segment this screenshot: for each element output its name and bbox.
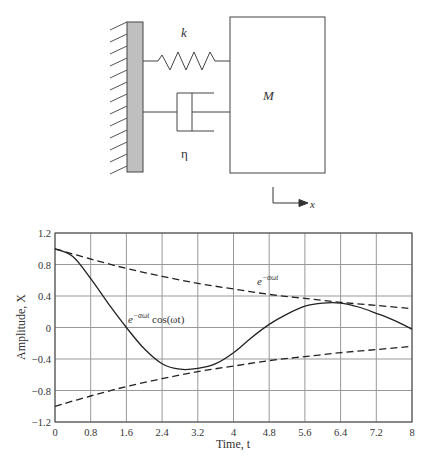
y-tick-label: −0.4 — [32, 354, 52, 365]
x-tick-label: 4.8 — [263, 427, 276, 438]
x-tick-label: 0.8 — [84, 427, 97, 438]
y-tick-label: 0.8 — [38, 260, 51, 271]
chart-grid — [55, 233, 412, 422]
y-tick-labels: 1.20.80.40−0.4−0.8−1.2 — [32, 228, 52, 428]
y-tick-label: −1.2 — [32, 417, 51, 428]
y-axis-title: Amplitude, X — [14, 294, 28, 360]
spring-label: k — [181, 25, 187, 40]
y-tick-label: −0.8 — [32, 386, 51, 397]
x-axis-title: Time, t — [216, 437, 251, 451]
mass-spring-damper-diagram: k η M x — [110, 17, 325, 210]
mass-label: M — [262, 88, 275, 103]
x-tick-label: 2.4 — [156, 427, 170, 438]
x-direction-label: x — [309, 198, 315, 210]
oscillation-annotation: e−αωt cos(ωt) — [128, 311, 185, 326]
x-tick-label: 0 — [52, 427, 57, 438]
x-tick-label: 6.4 — [334, 427, 348, 438]
damped-oscillation-chart: 00.81.62.43.244.85.66.47.28 1.20.80.40−0… — [14, 228, 415, 451]
x-direction-arrow — [273, 187, 308, 207]
y-tick-label: 1.2 — [38, 228, 51, 239]
damper — [143, 93, 230, 131]
x-tick-label: 5.6 — [298, 427, 311, 438]
x-tick-label: 7.2 — [370, 427, 383, 438]
y-tick-label: 0 — [46, 323, 51, 334]
x-tick-label: 1.6 — [120, 427, 133, 438]
envelope-annotation: e−αωt — [257, 273, 279, 287]
wall-hatching — [110, 22, 127, 174]
x-tick-label: 8 — [409, 427, 414, 438]
x-tick-label: 3.2 — [191, 427, 204, 438]
y-tick-label: 0.4 — [38, 291, 52, 302]
spring — [143, 52, 230, 70]
mass-block — [230, 17, 325, 173]
fixed-wall — [127, 22, 143, 172]
damper-label: η — [181, 146, 188, 161]
figure: k η M x 00.81.62.43.244.85.66.47.28 1.20… — [0, 0, 430, 465]
